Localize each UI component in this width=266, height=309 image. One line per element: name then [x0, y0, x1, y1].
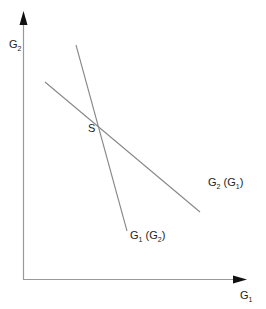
- diagram-canvas: G2 G1 S G2 (G1) G1 (G2): [0, 0, 266, 309]
- x-axis-arrow-icon: [233, 276, 247, 284]
- reaction-line-g2-of-g1: [45, 82, 200, 212]
- line-label-g2-of-g1: G2 (G1): [208, 176, 243, 190]
- line-label-g1-of-g2: G1 (G2): [130, 229, 165, 243]
- x-axis-label: G1: [240, 289, 253, 303]
- reaction-line-g1-of-g2: [76, 45, 127, 231]
- y-axis-arrow-icon: [20, 11, 28, 25]
- y-axis-label: G2: [9, 38, 22, 52]
- intersection-label: S: [88, 122, 95, 134]
